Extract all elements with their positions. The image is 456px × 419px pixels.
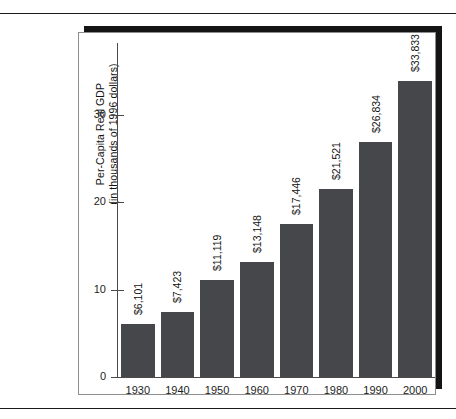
- bar-1960[interactable]: [240, 262, 274, 377]
- bar-1950[interactable]: [200, 280, 234, 377]
- y-tick-0: 0: [111, 377, 124, 378]
- bar-series: $6,101$7,423$11,119$13,148$17,446$21,521…: [118, 43, 435, 377]
- x-label-1950: 1950: [197, 383, 237, 397]
- bar-slot: $21,521: [316, 43, 356, 377]
- bar-1940[interactable]: [161, 312, 195, 377]
- bar-1930[interactable]: [121, 324, 155, 377]
- bar-slot: $7,423: [158, 43, 198, 377]
- page-rule-top: [0, 13, 456, 14]
- bar-value-label: $6,101: [132, 259, 144, 317]
- x-label-1990: 1990: [356, 383, 396, 397]
- bar-1980[interactable]: [319, 189, 353, 377]
- bar-value-label: $17,446: [290, 159, 302, 217]
- x-axis-line: [117, 377, 435, 378]
- bar-slot: $11,119: [197, 43, 237, 377]
- bar-value-label: $13,148: [251, 197, 263, 255]
- bar-value-label: $21,521: [330, 124, 342, 182]
- y-tick-label: 0: [100, 370, 106, 383]
- y-tick-label: 20: [94, 195, 106, 208]
- x-label-1940: 1940: [158, 383, 198, 397]
- bar-1970[interactable]: [280, 224, 314, 377]
- x-axis-labels: 19301940195019601970198019902000: [118, 383, 435, 401]
- bar-value-label: $26,834: [370, 77, 382, 135]
- x-label-1970: 1970: [277, 383, 317, 397]
- plot-area: Per-Capita Real GDP (in thousands of 199…: [79, 33, 435, 394]
- bar-slot: $6,101: [118, 43, 158, 377]
- x-label-1930: 1930: [118, 383, 158, 397]
- bar-slot: $26,834: [356, 43, 396, 377]
- bar-value-label: $11,119: [211, 215, 223, 273]
- bar-value-label: $33,833: [409, 16, 421, 74]
- x-label-1960: 1960: [237, 383, 277, 397]
- bar-2000[interactable]: [398, 81, 432, 377]
- x-label-2000: 2000: [395, 383, 435, 397]
- bar-value-label: $7,423: [171, 247, 183, 305]
- y-tick-label: 10: [94, 283, 106, 296]
- bar-slot: $33,833: [395, 43, 435, 377]
- bar-slot: $17,446: [277, 43, 317, 377]
- chart-figure: Per-Capita Real GDP (in thousands of 199…: [78, 32, 436, 395]
- bar-1990[interactable]: [359, 142, 393, 377]
- page-rule-bottom: [0, 408, 456, 409]
- x-label-1980: 1980: [316, 383, 356, 397]
- y-tick-label: 30: [94, 108, 106, 121]
- bar-slot: $13,148: [237, 43, 277, 377]
